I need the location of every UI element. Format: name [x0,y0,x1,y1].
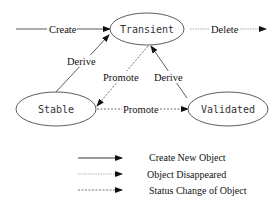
edge-label-promote-up: Promote [103,72,139,83]
node-validated: Validated [188,92,268,126]
node-transient: Transient [110,13,184,45]
edge-label-delete: Delete [211,24,239,35]
legend-label-status-change: Status Change of Object [149,185,247,196]
edge-derive-stable: Derive [55,35,109,93]
edge-promote-up: Promote [97,46,148,106]
edge-label-promote-horizontal: Promote [123,104,159,115]
state-diagram: Create Transient Delete Derive Promote D… [0,0,277,209]
legend-label-disappeared: Object Disappeared [147,169,226,180]
legend-item-status-change: Status Change of Object [78,185,247,196]
legend-label-create: Create New Object [149,152,226,163]
legend: Create New Object Object Disappeared Sta… [78,152,247,196]
node-label-validated: Validated [201,104,255,115]
edge-label-derive-stable: Derive [67,56,96,67]
legend-item-disappeared: Object Disappeared [78,169,226,180]
edge-derive-validated: Derive [151,46,187,98]
edge-delete: Delete [190,23,266,35]
edge-label-create: Create [49,24,77,35]
edge-create: Create [16,23,110,35]
node-label-stable: Stable [38,104,74,115]
node-stable: Stable [16,92,96,126]
edge-label-derive-validated: Derive [154,72,183,83]
edge-promote-horizontal: Promote [97,103,188,115]
legend-item-create: Create New Object [78,152,226,163]
node-label-transient: Transient [120,24,174,35]
